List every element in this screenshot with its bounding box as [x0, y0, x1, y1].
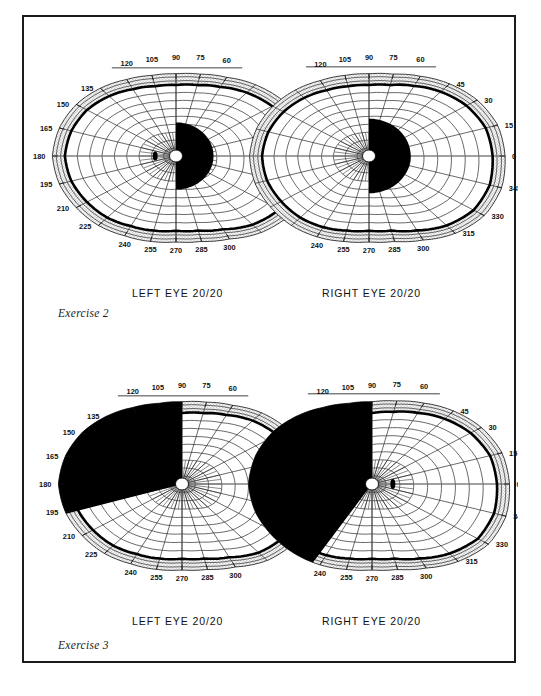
svg-text:240: 240: [311, 241, 323, 250]
svg-text:0: 0: [517, 480, 519, 489]
svg-text:105: 105: [342, 383, 354, 392]
svg-text:90: 90: [172, 53, 180, 62]
svg-text:30: 30: [484, 96, 492, 105]
svg-text:225: 225: [85, 550, 97, 559]
svg-text:150: 150: [57, 100, 69, 109]
exercise-2-fields-svg: 1201059075602402552702853001351501651801…: [24, 19, 518, 319]
exercise-3-chart-pair: 1201059075602402552702853001351501651801…: [24, 347, 518, 647]
svg-text:135: 135: [87, 412, 99, 421]
svg-text:330: 330: [496, 540, 508, 549]
svg-text:120: 120: [127, 387, 139, 396]
svg-text:270: 270: [176, 574, 188, 583]
svg-text:105: 105: [152, 383, 164, 392]
svg-text:180: 180: [33, 152, 45, 161]
svg-text:150: 150: [63, 428, 75, 437]
svg-text:255: 255: [340, 573, 352, 582]
svg-text:60: 60: [229, 384, 237, 393]
svg-text:315: 315: [462, 229, 474, 238]
svg-text:300: 300: [420, 572, 432, 581]
svg-text:300: 300: [229, 571, 241, 580]
svg-text:285: 285: [388, 245, 400, 254]
svg-text:285: 285: [195, 245, 207, 254]
svg-text:60: 60: [416, 55, 424, 64]
svg-text:270: 270: [170, 246, 182, 255]
svg-text:75: 75: [389, 53, 397, 62]
svg-text:105: 105: [146, 55, 158, 64]
svg-text:270: 270: [366, 574, 378, 583]
exercise-3-left-eye-caption: LEFT EYE 20/20: [132, 615, 223, 627]
svg-text:285: 285: [391, 573, 403, 582]
svg-text:60: 60: [420, 382, 428, 391]
svg-text:330: 330: [492, 212, 504, 221]
perimetry-plate-page: 1201059075602402552702853001351501651801…: [0, 0, 541, 696]
svg-text:240: 240: [118, 240, 130, 249]
svg-text:315: 315: [465, 557, 477, 566]
svg-text:105: 105: [339, 55, 351, 64]
svg-text:225: 225: [79, 222, 91, 231]
svg-text:210: 210: [63, 532, 75, 541]
exercise-3-label: Exercise 3: [58, 639, 109, 651]
svg-text:45: 45: [461, 407, 469, 416]
svg-text:75: 75: [202, 381, 210, 390]
svg-text:120: 120: [121, 59, 133, 68]
svg-text:195: 195: [40, 180, 52, 189]
svg-text:240: 240: [314, 569, 326, 578]
svg-text:300: 300: [223, 243, 235, 252]
svg-text:15: 15: [509, 449, 517, 458]
svg-text:255: 255: [150, 573, 162, 582]
exercise-2-left-eye-caption: LEFT EYE 20/20: [132, 287, 223, 299]
svg-text:75: 75: [196, 53, 204, 62]
exercise-2-chart-pair: 1201059075602402552702853001351501651801…: [24, 19, 518, 319]
plate-frame: 1201059075602402552702853001351501651801…: [22, 15, 516, 663]
svg-text:60: 60: [223, 56, 231, 65]
exercise-3-right-eye-caption: RIGHT EYE 20/20: [322, 615, 421, 627]
svg-text:135: 135: [81, 84, 93, 93]
exercise-3-row: 1201059075602402552702853001351501651801…: [24, 347, 518, 647]
svg-text:345: 345: [513, 512, 518, 521]
svg-text:255: 255: [144, 245, 156, 254]
svg-text:90: 90: [178, 381, 186, 390]
svg-text:30: 30: [489, 423, 497, 432]
exercise-2-right-eye-caption: RIGHT EYE 20/20: [322, 287, 421, 299]
svg-text:165: 165: [46, 452, 58, 461]
svg-text:210: 210: [57, 204, 69, 213]
exercise-3-fields-svg: 1201059075602402552702853001351501651801…: [24, 347, 518, 647]
svg-text:285: 285: [201, 573, 213, 582]
svg-text:75: 75: [393, 380, 401, 389]
svg-text:180: 180: [39, 480, 51, 489]
svg-text:240: 240: [124, 568, 136, 577]
svg-text:0: 0: [512, 152, 516, 161]
svg-text:90: 90: [365, 53, 373, 62]
svg-text:15: 15: [505, 121, 513, 130]
svg-text:195: 195: [46, 508, 58, 517]
svg-text:255: 255: [337, 245, 349, 254]
exercise-2-row: 1201059075602402552702853001351501651801…: [24, 19, 518, 319]
svg-text:45: 45: [457, 80, 465, 89]
svg-text:300: 300: [417, 244, 429, 253]
svg-text:120: 120: [314, 60, 326, 69]
exercise-2-label: Exercise 2: [58, 307, 109, 319]
svg-text:345: 345: [509, 184, 518, 193]
svg-text:165: 165: [40, 124, 52, 133]
svg-text:270: 270: [363, 246, 375, 255]
svg-text:90: 90: [368, 381, 376, 390]
